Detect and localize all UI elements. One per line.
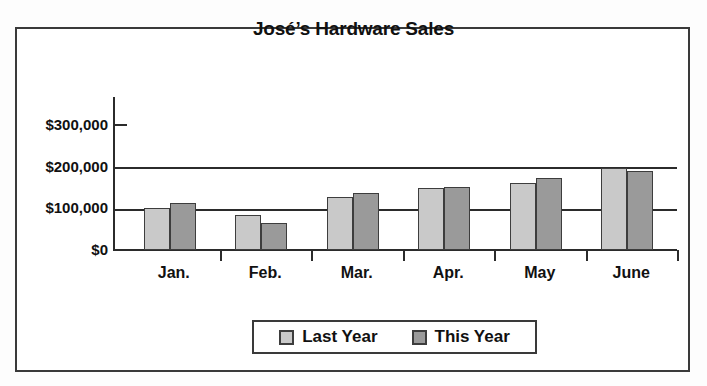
bar-may-last-year	[510, 183, 536, 251]
y-axis-tick-label: $0	[8, 241, 108, 258]
bar-feb-last-year	[235, 215, 261, 250]
bar-mar-last-year	[327, 197, 353, 250]
legend-label: This Year	[435, 327, 510, 347]
bar-may-this-year	[536, 178, 562, 250]
bar-jan-last-year	[144, 208, 170, 250]
legend-swatch-last-year	[279, 330, 294, 345]
y-axis-line	[113, 97, 115, 251]
x-axis-tick	[311, 250, 313, 261]
gridline-300000	[113, 124, 127, 126]
x-axis-category-label: Feb.	[220, 264, 312, 282]
bar-jan-this-year	[170, 203, 196, 250]
y-axis-labels: $0$100,000$200,000$300,000	[0, 0, 108, 386]
x-axis-tick	[220, 250, 222, 261]
bar-mar-this-year	[353, 193, 379, 251]
legend-label: Last Year	[302, 327, 377, 347]
legend-entry: This Year	[412, 327, 510, 347]
x-axis-tick	[494, 250, 496, 261]
x-axis-tick	[586, 250, 588, 261]
x-axis-category-label: Jan.	[128, 264, 220, 282]
x-axis-tick	[677, 250, 679, 261]
x-axis-category-label: Mar.	[311, 264, 403, 282]
bar-apr-this-year	[444, 187, 470, 250]
bar-apr-last-year	[418, 188, 444, 250]
y-axis-tick-label: $200,000	[8, 158, 108, 175]
y-axis-tick-label: $300,000	[8, 116, 108, 133]
gridline-100000	[113, 209, 677, 211]
x-axis-category-label: Apr.	[403, 264, 495, 282]
chart-figure: José’s Hardware Sales $0$100,000$200,000…	[0, 0, 707, 386]
chart-legend: Last YearThis Year	[252, 320, 537, 354]
legend-entry: Last Year	[279, 327, 377, 347]
x-axis-category-label: May	[494, 264, 586, 282]
x-axis-category-label: June	[586, 264, 678, 282]
gridline-200000	[113, 167, 677, 169]
y-axis-tick-label: $100,000	[8, 199, 108, 216]
axis-baseline	[113, 249, 677, 251]
bar-june-last-year	[601, 168, 627, 251]
bar-feb-this-year	[261, 223, 287, 250]
legend-swatch-this-year	[412, 330, 427, 345]
bar-june-this-year	[627, 171, 653, 250]
x-axis-tick	[403, 250, 405, 261]
